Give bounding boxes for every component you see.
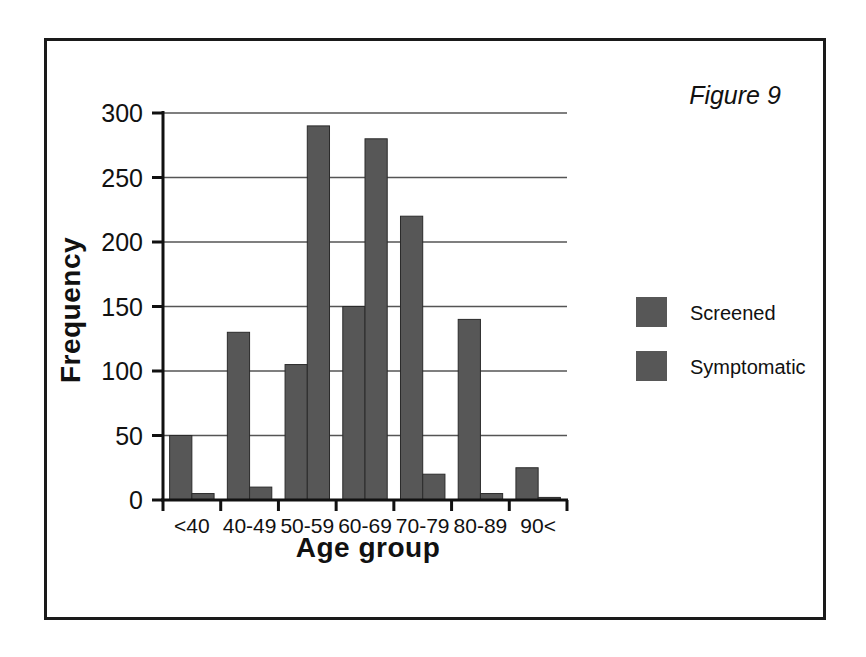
bar [250, 487, 272, 500]
bar-chart: 050100150200250300 <4040-4950-5960-6970-… [0, 0, 866, 657]
bar [285, 365, 307, 500]
bar [400, 216, 422, 500]
bar [227, 332, 249, 500]
y-tick-label: 50 [115, 422, 143, 450]
x-category-label: 90< [520, 514, 556, 537]
bar [516, 468, 538, 500]
legend-label-symptomatic: Symptomatic [690, 356, 806, 378]
y-tick-label: 300 [101, 99, 143, 127]
legend-swatch-screened [636, 297, 667, 327]
figure-root: 050100150200250300 <4040-4950-5960-6970-… [0, 0, 866, 657]
y-axis-title: Frequency [55, 237, 86, 383]
bar [307, 126, 329, 500]
y-tick-label: 100 [101, 357, 143, 385]
figure-caption: Figure 9 [689, 81, 781, 109]
x-axis-ticks [163, 500, 567, 511]
legend-label-screened: Screened [690, 302, 776, 324]
bar [170, 436, 192, 501]
x-category-label: <40 [174, 514, 210, 537]
x-category-label: 80-89 [454, 514, 508, 537]
y-axis-ticks: 050100150200250300 [101, 99, 163, 514]
bar [343, 307, 365, 501]
x-axis-title: Age group [296, 532, 441, 563]
bar [423, 474, 445, 500]
legend: Screened Symptomatic [636, 297, 806, 381]
y-tick-label: 0 [129, 486, 143, 514]
bar [365, 139, 387, 500]
y-tick-label: 200 [101, 228, 143, 256]
y-tick-label: 250 [101, 164, 143, 192]
x-category-label: 40-49 [223, 514, 277, 537]
y-tick-label: 150 [101, 293, 143, 321]
legend-swatch-symptomatic [636, 351, 667, 381]
bar [458, 319, 480, 500]
